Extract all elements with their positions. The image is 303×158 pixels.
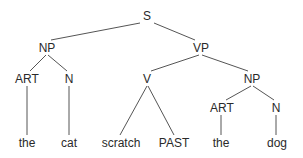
syntax-tree-diagram: S NP VP ART N V NP ART N the cat scratch… bbox=[0, 0, 303, 158]
leaf-cat: cat bbox=[61, 137, 77, 149]
edge-v-past bbox=[148, 86, 174, 135]
leaf-scratch: scratch bbox=[102, 137, 141, 149]
edge-s-np bbox=[51, 23, 140, 40]
node-art-subject: ART bbox=[15, 73, 39, 85]
edge-np-n-obj bbox=[253, 86, 274, 100]
leaf-past: PAST bbox=[159, 137, 189, 149]
node-n-subject: N bbox=[65, 73, 74, 85]
leaf-the-subject: the bbox=[19, 137, 36, 149]
edge-v-scratch bbox=[120, 86, 147, 135]
node-np-object: NP bbox=[244, 73, 261, 85]
node-n-object: N bbox=[272, 102, 281, 114]
edge-vp-np bbox=[202, 55, 248, 71]
node-art-object: ART bbox=[210, 102, 234, 114]
node-vp: VP bbox=[193, 42, 209, 54]
leaf-dog: dog bbox=[267, 137, 287, 149]
edge-np-art bbox=[30, 55, 46, 71]
node-v: V bbox=[143, 73, 151, 85]
node-np-subject: NP bbox=[39, 42, 56, 54]
edge-s-vp bbox=[154, 23, 195, 40]
node-s: S bbox=[143, 10, 151, 22]
edge-np-n bbox=[48, 55, 67, 71]
edge-np-art-obj bbox=[226, 86, 251, 100]
leaf-the-object: the bbox=[213, 137, 230, 149]
edge-vp-v bbox=[151, 55, 199, 71]
